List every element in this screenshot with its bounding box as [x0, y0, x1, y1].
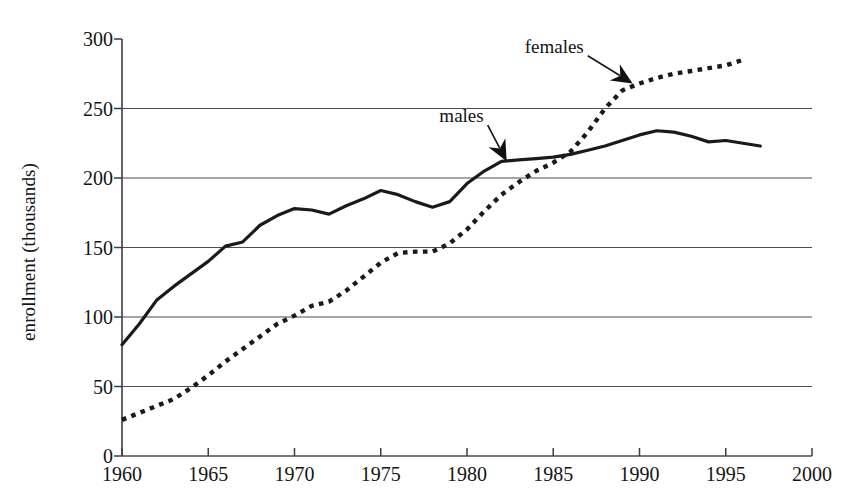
series-line-males [122, 131, 760, 345]
arrow-shaft-males [488, 125, 500, 148]
data-series [122, 60, 760, 420]
plot-area [0, 0, 844, 503]
enrollment-line-chart: enrollment (thousands) 05010015020025030… [0, 0, 844, 503]
series-line-females [122, 60, 743, 420]
arrow-head-males [489, 138, 507, 161]
gridlines [122, 109, 812, 457]
arrow-head-females [610, 64, 633, 83]
arrow-shaft-females [588, 56, 620, 76]
